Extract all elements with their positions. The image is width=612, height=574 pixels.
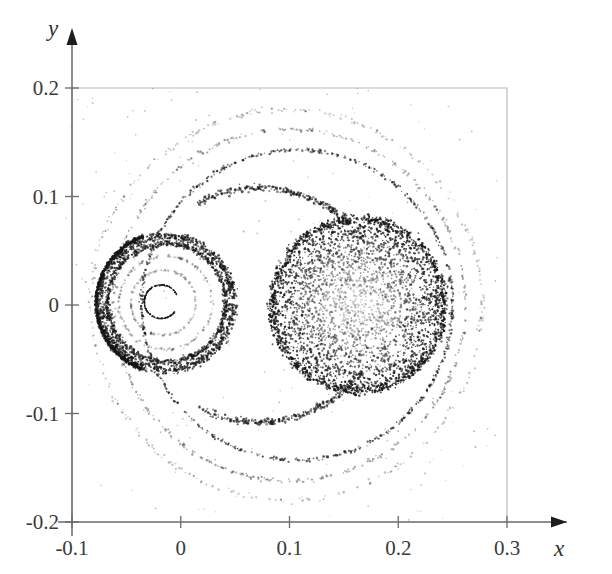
x-tick-label: 0: [176, 536, 187, 561]
x-axis-label: x: [554, 536, 564, 562]
x-tick-label: -0.1: [55, 536, 88, 561]
y-tick-label: -0.1: [26, 401, 59, 426]
scatter-plot: [0, 0, 612, 574]
y-tick-label: -0.2: [26, 510, 59, 535]
figure-canvas: -0.100.10.20.30.20.10-0.1-0.2 x y: [0, 0, 612, 574]
y-tick-label: 0.2: [33, 76, 59, 101]
y-axis-label: y: [48, 16, 58, 42]
x-tick-label: 0.3: [494, 536, 520, 561]
y-tick-label: 0.1: [33, 184, 59, 209]
axes: [58, 28, 567, 536]
x-tick-label: 0.2: [385, 536, 411, 561]
x-tick-label: 0.1: [276, 536, 302, 561]
y-tick-label: 0: [49, 293, 60, 318]
data-points: [65, 88, 497, 521]
